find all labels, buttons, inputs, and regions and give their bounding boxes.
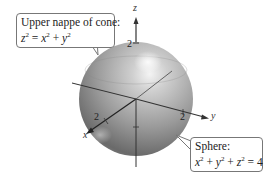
y-axis-label: y <box>211 110 215 121</box>
cone-callout: Upper nappe of cone: z2 = x2 + y2 <box>16 13 115 48</box>
sphere-callout-tail <box>176 135 191 150</box>
y-tick-label: 2 <box>180 111 185 122</box>
z-axis-label: z <box>133 2 137 13</box>
sphere-callout-title: Sphere: <box>195 140 258 153</box>
x-axis-label: x <box>83 129 87 140</box>
y-axis-arrow-icon <box>201 115 209 120</box>
sphere-highlight <box>134 51 162 73</box>
cone-callout-title: Upper nappe of cone: <box>21 16 110 29</box>
sphere-equation: x2 + y2 + z2 = 4 <box>195 153 258 169</box>
x-tick-label: 2 <box>94 111 99 122</box>
cone-equation: z2 = x2 + y2 <box>21 29 110 45</box>
z-axis-arrow-icon <box>134 17 139 24</box>
z-tick-label: 2 <box>127 38 132 49</box>
sphere-callout: Sphere: x2 + y2 + z2 = 4 <box>190 137 263 172</box>
